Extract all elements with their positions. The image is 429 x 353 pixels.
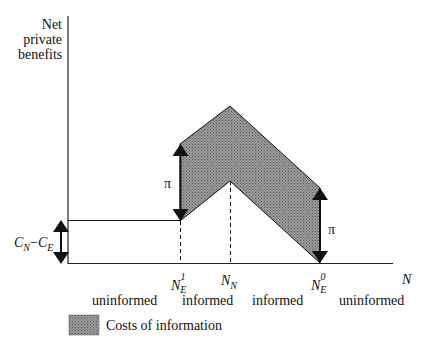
pi-label-right: π	[328, 222, 335, 237]
region-label-4: uninformed	[339, 293, 404, 308]
region-label-2: informed	[182, 293, 233, 308]
x-axis-label: N	[402, 272, 411, 287]
legend-swatch	[69, 315, 99, 335]
legend-label: Costs of information	[106, 318, 222, 333]
tick-NN: NN	[221, 273, 237, 293]
region-label-1: uninformed	[92, 293, 157, 308]
region-label-3: informed	[252, 293, 303, 308]
pi-label-left: π	[164, 176, 171, 191]
cost-difference-label: CN−CE	[14, 235, 53, 255]
tick-NE0: NE0	[311, 273, 331, 297]
costs-region	[180, 106, 320, 263]
